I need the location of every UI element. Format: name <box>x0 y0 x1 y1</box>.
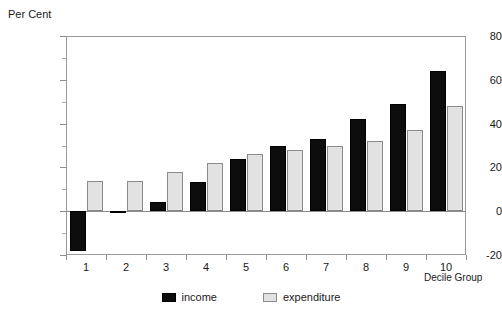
bar-income-1 <box>70 211 86 250</box>
x-tick-label: 2 <box>111 261 141 273</box>
x-tick-label: 9 <box>391 261 421 273</box>
bar-expenditure-4 <box>207 163 223 211</box>
bar-income-8 <box>350 119 366 211</box>
x-tick <box>466 255 467 260</box>
x-tick-label: 1 <box>71 261 101 273</box>
bar-income-2 <box>110 211 126 213</box>
x-tick <box>226 255 227 260</box>
bar-income-6 <box>270 146 286 212</box>
x-tick <box>106 255 107 260</box>
x-tick-label: 4 <box>191 261 221 273</box>
x-tick <box>346 255 347 260</box>
bar-income-5 <box>230 159 246 212</box>
legend-item-expenditure: expenditure <box>263 291 341 303</box>
x-tick <box>266 255 267 260</box>
legend-label-income: income <box>182 291 217 303</box>
x-tick-label: 8 <box>351 261 381 273</box>
bar-income-7 <box>310 139 326 211</box>
legend-swatch-expenditure <box>263 293 277 302</box>
zero-baseline <box>66 211 466 212</box>
y-axis-title: Per Cent <box>8 8 51 20</box>
x-tick <box>386 255 387 260</box>
bar-expenditure-2 <box>127 181 143 212</box>
bar-income-9 <box>390 104 406 211</box>
bar-expenditure-8 <box>367 141 383 211</box>
bar-income-10 <box>430 71 446 211</box>
x-tick-label: 5 <box>231 261 261 273</box>
x-tick <box>426 255 427 260</box>
legend-item-income: income <box>162 291 217 303</box>
bar-expenditure-7 <box>327 146 343 212</box>
chart-legend: income expenditure <box>0 291 502 303</box>
bar-expenditure-9 <box>407 130 423 211</box>
bar-chart: Per Cent -20020406080 12345678910 Decile… <box>0 0 502 314</box>
x-tick-label: 6 <box>271 261 301 273</box>
x-tick <box>66 255 67 260</box>
x-tick-label: 7 <box>311 261 341 273</box>
bar-expenditure-6 <box>287 150 303 211</box>
bar-expenditure-5 <box>247 154 263 211</box>
x-axis-title: Decile Group <box>424 272 482 283</box>
bar-income-4 <box>190 182 206 212</box>
bar-expenditure-10 <box>447 106 463 211</box>
x-tick <box>306 255 307 260</box>
x-tick <box>146 255 147 260</box>
legend-swatch-income <box>162 293 176 302</box>
bar-expenditure-3 <box>167 172 183 211</box>
legend-label-expenditure: expenditure <box>283 291 341 303</box>
x-tick-label: 3 <box>151 261 181 273</box>
x-tick <box>186 255 187 260</box>
bar-expenditure-1 <box>87 181 103 212</box>
bar-income-3 <box>150 202 166 211</box>
